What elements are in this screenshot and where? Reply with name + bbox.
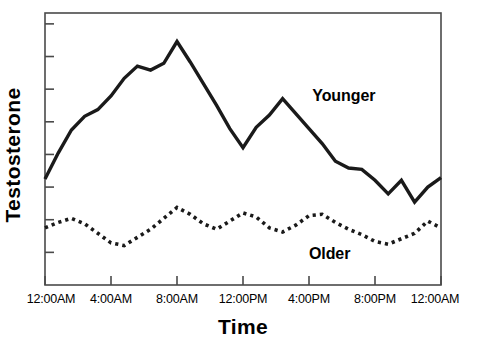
y-axis-ticks bbox=[45, 24, 54, 252]
x-axis-tick-label: 4:00AM bbox=[90, 292, 132, 306]
series-label-younger: Younger bbox=[312, 87, 375, 104]
x-axis-title: Time bbox=[218, 315, 268, 338]
series-label-older: Older bbox=[309, 245, 350, 262]
chart-figure: 12:00AM4:00AM8:00AM12:00PM4:00PM8:00PM12… bbox=[0, 0, 480, 349]
x-axis-ticks bbox=[45, 276, 441, 285]
x-axis-tick-label: 12:00AM bbox=[27, 292, 76, 306]
series-line-older bbox=[45, 207, 441, 245]
y-axis-title: Testosterone bbox=[1, 87, 24, 222]
x-axis-tick-label: 8:00PM bbox=[354, 292, 396, 306]
x-axis-tick-label: 12:00PM bbox=[219, 292, 268, 306]
x-axis-tick-label: 8:00AM bbox=[156, 292, 198, 306]
x-axis-tick-label: 4:00PM bbox=[288, 292, 330, 306]
x-axis-tick-labels: 12:00AM4:00AM8:00AM12:00PM4:00PM8:00PM12… bbox=[27, 292, 460, 306]
chart-canvas: 12:00AM4:00AM8:00AM12:00PM4:00PM8:00PM12… bbox=[0, 0, 480, 349]
series-line-younger bbox=[45, 42, 441, 202]
x-axis-tick-label: 12:00AM bbox=[411, 292, 460, 306]
